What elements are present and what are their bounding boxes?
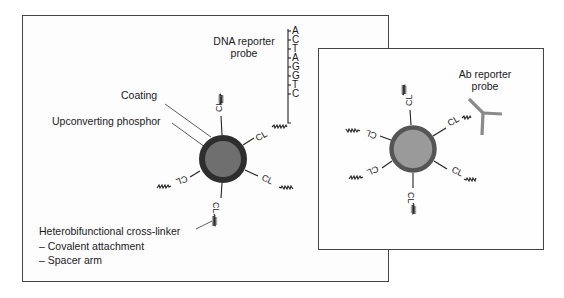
spacer-arm-label: – Spacer arm [39,254,102,266]
svg-text:CL: CL [254,129,269,143]
svg-text:CL: CL [175,174,189,187]
svg-text:CL: CL [365,164,380,178]
svg-text:CL: CL [364,128,378,141]
coating-label: Coating [121,89,157,101]
ab-probe-label-line2: probe [452,80,518,92]
svg-text:CL: CL [450,165,465,179]
dna-probe-label: DNA reporter probe [206,35,282,59]
dna-base: C [292,89,302,98]
svg-text:CL: CL [406,192,416,204]
antibody-probe [469,99,502,135]
right-phosphor-particle [392,128,435,171]
covalent-attachment-label: – Covalent attachment [39,240,144,252]
left-phosphor-particle [202,138,244,180]
svg-text:CL: CL [404,94,414,106]
crosslinker-label: Heterobifunctional cross-linker [39,225,180,237]
svg-text:CL: CL [446,114,461,128]
dna-sequence: A C T A G G T C [292,26,302,98]
svg-text:CL: CL [260,173,275,187]
dna-strand [288,29,291,123]
ab-probe-label: Ab reporter probe [452,68,518,92]
svg-text:CL: CL [214,100,224,112]
svg-text:CL: CL [211,202,221,214]
dna-probe-label-line2: probe [206,47,282,59]
ab-probe-label-line1: Ab reporter [452,68,518,80]
dna-probe-label-line1: DNA reporter [206,35,282,47]
phosphor-label: Upconverting phosphor [52,115,161,127]
